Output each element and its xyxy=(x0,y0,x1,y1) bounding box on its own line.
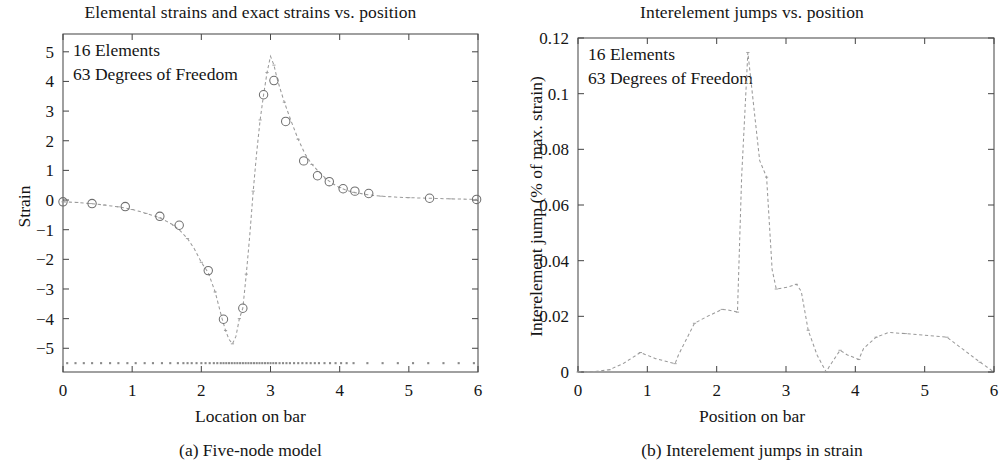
data-point-marker xyxy=(175,221,183,229)
y-tick-label: 0.1 xyxy=(548,85,569,104)
data-point-marker xyxy=(219,315,227,323)
node-sample-dot xyxy=(228,362,230,364)
node-sample-dot xyxy=(152,362,154,364)
node-sample-dot xyxy=(117,362,119,364)
x-tick-label: 2 xyxy=(197,381,206,400)
node-sample-dot xyxy=(236,362,238,364)
panel-a-y-axis-label: Strain xyxy=(14,167,35,247)
node-sample-dot xyxy=(245,362,247,364)
node-sample-dot xyxy=(310,362,312,364)
plot-frame xyxy=(578,38,994,372)
node-sample-dot xyxy=(239,362,241,364)
node-sample-dot xyxy=(301,362,303,364)
node-sample-dot xyxy=(169,362,171,364)
node-sample-dot xyxy=(323,362,325,364)
node-sample-dot xyxy=(297,362,299,364)
panel-a-caption: (a) Five-node model xyxy=(0,440,501,461)
node-sample-dot xyxy=(458,362,460,364)
data-point-marker xyxy=(351,187,359,195)
node-sample-dot xyxy=(220,362,222,364)
node-sample-dot xyxy=(272,362,274,364)
node-sample-dot xyxy=(187,362,189,364)
node-sample-dot xyxy=(250,362,252,364)
data-point-marker xyxy=(282,117,290,125)
panel-a-plot: 0123456−5−4−3−2−101234516 Elements63 Deg… xyxy=(0,0,501,466)
panel-b-caption: (b) Interelement jumps in strain xyxy=(501,440,1003,461)
y-tick-label: −2 xyxy=(36,250,54,269)
node-sample-dot xyxy=(135,362,137,364)
node-sample-dot xyxy=(100,362,102,364)
panel-a-x-axis-label: Location on bar xyxy=(0,406,501,427)
plot-annotation: 16 Elements xyxy=(588,44,675,64)
node-sample-dot xyxy=(314,362,316,364)
node-sample-dot xyxy=(278,362,280,364)
plot-annotation: 63 Degrees of Freedom xyxy=(588,68,753,88)
node-sample-dot xyxy=(177,362,179,364)
x-tick-label: 6 xyxy=(474,381,483,400)
x-tick-label: 1 xyxy=(128,381,137,400)
node-sample-dot xyxy=(412,362,414,364)
node-sample-dot xyxy=(231,362,233,364)
node-sample-dot xyxy=(144,362,146,364)
x-tick-label: 6 xyxy=(990,381,999,400)
data-point-marker xyxy=(300,157,308,165)
panel-b-plot: 012345600.020.040.060.080.10.1216 Elemen… xyxy=(501,0,1003,466)
panel-b-x-axis-label: Position on bar xyxy=(501,406,1003,427)
data-point-marker xyxy=(313,172,321,180)
y-tick-label: −1 xyxy=(36,221,54,240)
node-sample-dot xyxy=(204,362,206,364)
node-sample-dot xyxy=(442,362,444,364)
node-sample-dot xyxy=(216,362,218,364)
node-sample-dot xyxy=(83,362,85,364)
y-tick-label: 0 xyxy=(561,363,570,382)
panel-b: Interelement jumps vs. position 01234560… xyxy=(501,0,1003,466)
node-sample-dot xyxy=(256,362,258,364)
x-tick-label: 0 xyxy=(574,381,583,400)
x-tick-label: 3 xyxy=(782,381,791,400)
y-tick-label: −5 xyxy=(36,339,54,358)
x-tick-label: 3 xyxy=(266,381,275,400)
node-sample-dot xyxy=(109,362,111,364)
node-sample-dot xyxy=(353,362,355,364)
x-tick-label: 5 xyxy=(405,381,414,400)
node-sample-dot xyxy=(200,362,202,364)
node-sample-dot xyxy=(270,362,272,364)
plot-annotation: 63 Degrees of Freedom xyxy=(73,64,238,84)
node-sample-dot xyxy=(335,362,337,364)
y-tick-label: 0 xyxy=(46,191,55,210)
node-sample-dot xyxy=(340,362,342,364)
y-tick-label: 5 xyxy=(46,43,55,62)
node-sample-dot xyxy=(66,362,68,364)
node-sample-dot xyxy=(161,362,163,364)
x-tick-label: 1 xyxy=(643,381,652,400)
node-sample-dot xyxy=(318,362,320,364)
data-series-line xyxy=(63,56,478,344)
data-point-marker xyxy=(365,189,373,197)
node-sample-dot xyxy=(209,362,211,364)
y-tick-label: −3 xyxy=(36,280,54,299)
plot-frame xyxy=(63,34,478,372)
node-sample-dot xyxy=(329,362,331,364)
node-sample-dot xyxy=(366,362,368,364)
node-sample-dot xyxy=(225,362,227,364)
node-sample-dot xyxy=(264,362,266,364)
node-sample-dot xyxy=(275,362,277,364)
node-sample-dot xyxy=(234,362,236,364)
node-sample-dot xyxy=(253,362,255,364)
node-sample-dot xyxy=(289,362,291,364)
y-tick-label: −4 xyxy=(36,310,55,329)
x-tick-label: 4 xyxy=(335,381,344,400)
x-tick-label: 0 xyxy=(59,381,68,400)
node-sample-dot xyxy=(382,362,384,364)
y-tick-label: 2 xyxy=(46,132,55,151)
node-sample-dot xyxy=(293,362,295,364)
node-sample-dot xyxy=(126,362,128,364)
node-sample-dot xyxy=(191,362,193,364)
node-sample-dot xyxy=(213,362,215,364)
figure-root: Elemental strains and exact strains vs. … xyxy=(0,0,1003,466)
x-tick-label: 2 xyxy=(712,381,721,400)
node-sample-dot xyxy=(282,362,284,364)
node-sample-dot xyxy=(427,362,429,364)
x-tick-label: 5 xyxy=(920,381,929,400)
node-sample-dot xyxy=(261,362,263,364)
